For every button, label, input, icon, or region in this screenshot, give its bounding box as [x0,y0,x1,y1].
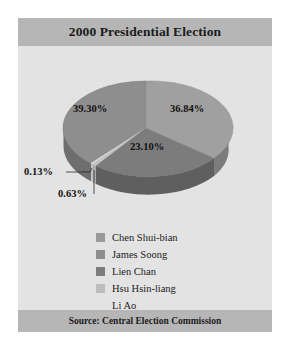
legend-label: Hsu Hsin-liang [112,283,176,294]
legend-swatch-icon [96,267,105,276]
pie-chart-area: 39.30% 36.84% 23.10% 0.13% 0.63% Chen Sh… [18,46,272,296]
legend-swatch-icon [96,284,105,293]
legend-item-lien-chan: Lien Chan [96,264,256,279]
legend-item-james-soong: James Soong [96,247,256,262]
pie-wall-sliver-1 [91,163,93,182]
chart-legend: Chen Shui-bian James Soong Lien Chan Hsu… [96,230,256,315]
slice-label-james-soong: 36.84% [170,103,204,114]
slice-label-chen-shui-bian: 39.30% [73,103,107,114]
chart-title-bar: 2000 Presidential Election [18,18,272,46]
legend-label: James Soong [112,249,167,260]
legend-swatch-icon [96,233,105,242]
slice-label-lien-chan: 23.10% [130,141,164,152]
slice-label-li-ao: 0.13% [24,166,53,177]
legend-item-hsu-hsin-liang: Hsu Hsin-liang [96,281,256,296]
source-text: Source: Central Election Commission [69,316,222,326]
chart-source-bar: Source: Central Election Commission [18,310,272,332]
legend-swatch-icon [96,301,105,310]
legend-item-chen-shui-bian: Chen Shui-bian [96,230,256,245]
legend-label: Lien Chan [112,266,156,277]
slice-label-hsu-hsin-liang: 0.63% [58,188,87,199]
legend-label: Chen Shui-bian [112,232,178,243]
legend-swatch-icon [96,250,105,259]
chart-card: 2000 Presidential Election [18,18,272,332]
page-title: 2000 Presidential Election [69,24,221,40]
